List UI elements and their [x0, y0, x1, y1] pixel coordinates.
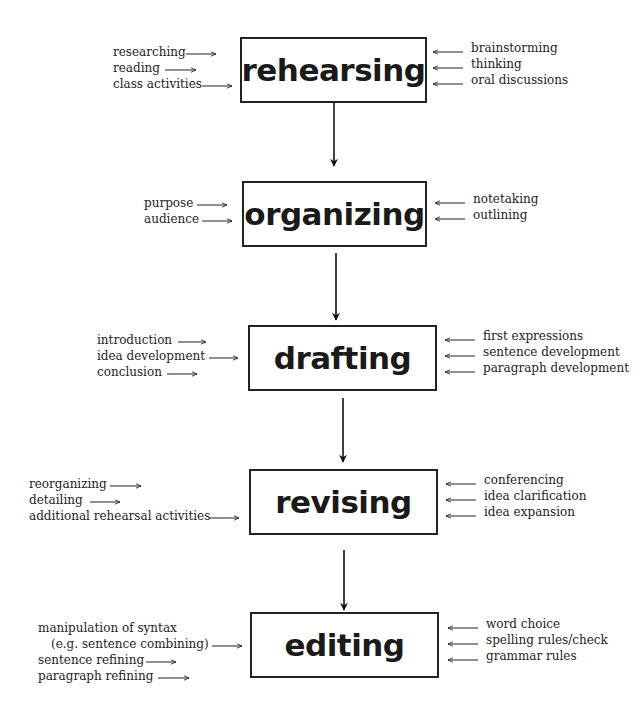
- input-label: researching: [113, 44, 186, 60]
- input-label: thinking: [471, 56, 522, 72]
- input-label: spelling rules/check: [486, 632, 608, 648]
- stage-box-organizing: organizing: [242, 181, 427, 247]
- stage-box-rehearsing: rehearsing: [240, 37, 427, 103]
- input-label: conclusion: [97, 364, 162, 380]
- input-label: audience: [144, 211, 199, 227]
- input-label: outlining: [473, 207, 527, 223]
- input-label: word choice: [486, 616, 560, 632]
- input-label: conferencing: [484, 472, 564, 488]
- input-label: class activities: [113, 76, 202, 92]
- input-label: reorganizing: [29, 476, 107, 492]
- stage-label: rehearsing: [242, 55, 426, 86]
- writing-process-diagram: rehearsing researching reading class act…: [0, 0, 640, 720]
- input-label: detailing: [29, 492, 83, 508]
- input-label: idea clarification: [484, 488, 586, 504]
- input-label: sentence refining: [38, 652, 144, 668]
- stage-label: editing: [284, 630, 404, 661]
- input-label: oral discussions: [471, 72, 568, 88]
- input-label: brainstorming: [471, 40, 558, 56]
- input-label: paragraph development: [483, 360, 629, 376]
- input-label: sentence development: [483, 344, 620, 360]
- stage-box-drafting: drafting: [248, 325, 437, 391]
- input-label: idea development: [97, 348, 205, 364]
- stage-label: drafting: [274, 343, 412, 374]
- input-label: first expressions: [483, 328, 583, 344]
- input-label: grammar rules: [486, 648, 577, 664]
- input-label: purpose: [144, 195, 193, 211]
- input-label: manipulation of syntax: [38, 620, 177, 636]
- input-label: paragraph refining: [38, 668, 153, 684]
- stage-label: revising: [275, 487, 411, 518]
- stage-box-revising: revising: [249, 469, 438, 535]
- stage-box-editing: editing: [250, 612, 439, 678]
- stage-label: organizing: [244, 199, 424, 230]
- input-label: additional rehearsal activities: [29, 508, 210, 524]
- input-label: idea expansion: [484, 504, 575, 520]
- input-label: notetaking: [473, 191, 538, 207]
- input-label: reading: [113, 60, 160, 76]
- input-label: (e.g. sentence combining): [51, 636, 209, 652]
- input-label: introduction: [97, 332, 172, 348]
